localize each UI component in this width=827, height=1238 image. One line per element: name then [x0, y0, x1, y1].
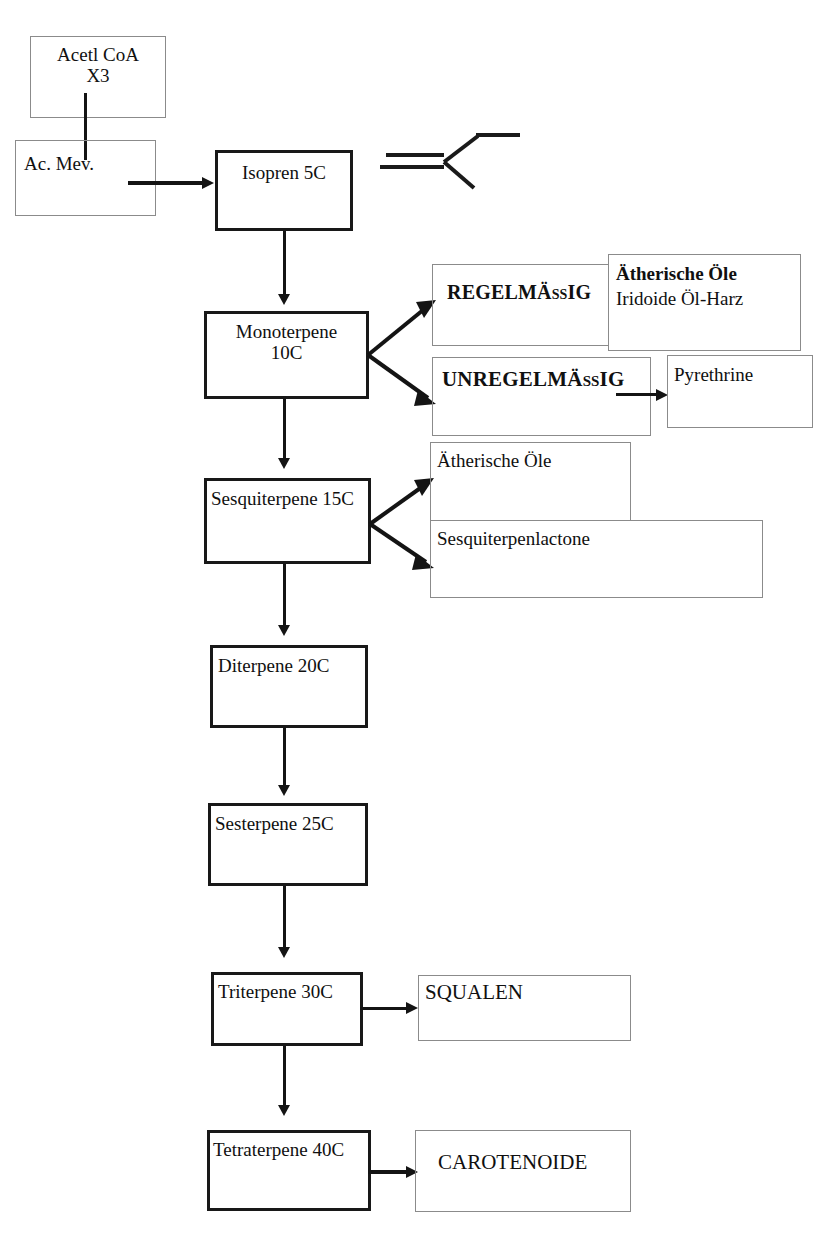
node-aetherische-oele-label: Ätherische Öle	[437, 450, 624, 471]
node-tetraterpene: Tetraterpene 40C	[207, 1130, 371, 1211]
node-unregelmaessig: UNREGELMÄßIG	[432, 357, 651, 436]
terpene-pathway-diagram: Acetl CoA X3 Ac. Mev. Isopren 5C Monoter…	[0, 0, 827, 1238]
node-acetyl-coa-label: Acetl CoA X3	[35, 44, 161, 87]
connector-sesterpene-to-triterpene	[283, 886, 286, 950]
arrow-head-diterpene-to-sesterpene	[278, 785, 290, 796]
node-aetherische-oele-iridoide-line2: Iridoide Öl-Harz	[616, 288, 794, 309]
connector-monoterpene-to-sesquiterpene	[283, 399, 286, 461]
node-squalen: SQUALEN	[418, 975, 631, 1041]
node-sesquiterpenlactone-label: Sesquiterpenlactone	[437, 528, 756, 549]
arrow-head-sesterpene-to-triterpene	[278, 947, 290, 958]
node-pyrethrine-label: Pyrethrine	[674, 364, 806, 385]
node-diterpene-label: Diterpene 20C	[218, 655, 359, 676]
node-unregelmaessig-label: UNREGELMÄßIG	[442, 368, 644, 392]
node-acetyl-coa: Acetl CoA X3	[30, 36, 166, 118]
node-pyrethrine: Pyrethrine	[667, 355, 813, 428]
arrow-head-isopren-to-monoterpene	[278, 294, 290, 305]
arrow-head-triterpene-to-tetraterpene	[278, 1105, 290, 1116]
node-regelmaessig: REGELMÄßIG	[432, 264, 609, 346]
connector-unregelmaessig-to-pyrethrine	[616, 393, 660, 396]
node-sesterpene: Sesterpene 25C	[208, 803, 368, 886]
node-sesquiterpene: Sesquiterpene 15C	[204, 478, 371, 564]
node-regelmaessig-label: REGELMÄßIG	[447, 281, 602, 303]
node-squalen-label: SQUALEN	[425, 981, 624, 1005]
node-ac-mev: Ac. Mev.	[15, 140, 156, 216]
arrow-head-sesquiterpene-to-diterpene	[278, 625, 290, 636]
node-sesterpene-label: Sesterpene 25C	[215, 813, 359, 834]
connector-diterpene-to-sesterpene	[283, 728, 286, 788]
node-aetherische-oele-iridoide-line1: Ätherische Öle	[616, 263, 794, 284]
node-isopren: Isopren 5C	[215, 150, 353, 231]
connector-acmev-to-isopren	[128, 181, 204, 185]
connector-sesquiterpene-to-diterpene	[283, 564, 286, 628]
arrow-head-triterpene-to-squalen	[406, 1002, 418, 1014]
connector-triterpene-to-squalen	[360, 1007, 410, 1010]
arrow-head-acmev-to-isopren	[202, 177, 214, 189]
connector-isopren-to-monoterpene	[283, 231, 286, 297]
node-monoterpene: Monoterpene 10C	[204, 311, 369, 399]
node-carotenoide-label: CAROTENOIDE	[438, 1151, 624, 1175]
connector-tetraterpene-to-carotenoide	[368, 1170, 410, 1174]
node-tetraterpene-label: Tetraterpene 40C	[213, 1139, 362, 1160]
node-aetherische-oele-iridoide: Ätherische Öle Iridoide Öl-Harz	[608, 254, 801, 351]
node-isopren-label: Isopren 5C	[222, 162, 346, 183]
isoprene-structure-icon	[378, 118, 528, 208]
node-sesquiterpenlactone: Sesquiterpenlactone	[430, 520, 763, 598]
connector-triterpene-to-tetraterpene	[283, 1046, 286, 1108]
node-triterpene: Triterpene 30C	[211, 972, 363, 1046]
node-aetherische-oele: Ätherische Öle	[430, 442, 631, 521]
arrow-head-monoterpene-to-sesquiterpene	[278, 458, 290, 469]
node-triterpene-label: Triterpene 30C	[218, 981, 354, 1002]
node-carotenoide: CAROTENOIDE	[415, 1130, 631, 1212]
node-monoterpene-label: Monoterpene 10C	[211, 321, 362, 364]
node-diterpene: Diterpene 20C	[210, 645, 368, 728]
node-ac-mev-label: Ac. Mev.	[24, 153, 149, 174]
node-sesquiterpene-label: Sesquiterpene 15C	[211, 488, 362, 509]
